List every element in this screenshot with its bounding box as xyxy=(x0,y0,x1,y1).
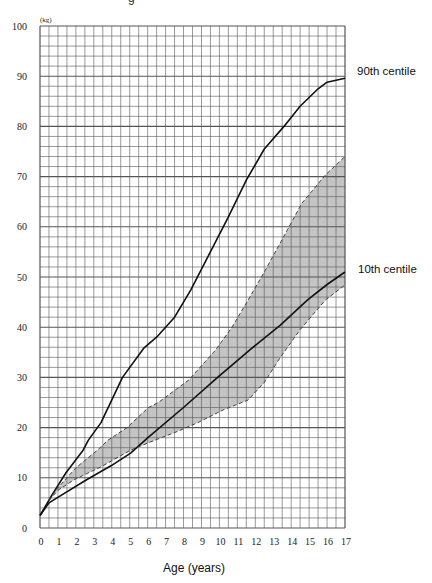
x-tick-label: 14 xyxy=(287,536,297,547)
x-tick-label: 4 xyxy=(110,536,115,547)
x-tick-label: 16 xyxy=(323,536,333,547)
grid xyxy=(40,26,345,528)
y-tick-label: 80 xyxy=(17,121,27,132)
x-tick-label: 10 xyxy=(215,536,225,547)
x-tick-label: 2 xyxy=(74,536,79,547)
weight-centile-chart: 0102030405060708090100 01234567891011121… xyxy=(0,0,432,583)
x-tick-label: 11 xyxy=(234,536,244,547)
y-tick-label: 70 xyxy=(17,171,27,182)
y-tick-label: 50 xyxy=(17,272,27,283)
y-tick-label: 60 xyxy=(17,221,27,232)
y-axis-ticks: 0102030405060708090100 xyxy=(12,21,27,534)
x-tick-label: 8 xyxy=(182,536,187,547)
x-tick-label: 13 xyxy=(269,536,279,547)
x-tick-label: 17 xyxy=(341,536,351,547)
x-axis-label: Age (years) xyxy=(163,561,225,575)
x-tick-label: 15 xyxy=(305,536,315,547)
label-10th-centile: 10th centile xyxy=(358,263,417,275)
y-tick-label: 10 xyxy=(17,472,27,483)
y-tick-label: 30 xyxy=(17,372,27,383)
x-tick-label: 3 xyxy=(92,536,97,547)
x-tick-label: 9 xyxy=(200,536,205,547)
x-tick-label: 6 xyxy=(146,536,151,547)
x-tick-label: 5 xyxy=(128,536,133,547)
x-tick-label: 1 xyxy=(56,536,61,547)
y-axis-unit: (kg) xyxy=(40,16,52,24)
y-tick-label: 100 xyxy=(12,21,27,32)
y-tick-label: 90 xyxy=(17,71,27,82)
label-90th-centile: 90th centile xyxy=(357,65,416,77)
y-tick-label: 20 xyxy=(17,422,27,433)
x-tick-label: 0 xyxy=(39,536,44,547)
x-tick-label: 7 xyxy=(164,536,169,547)
y-tick-label: 0 xyxy=(22,523,27,534)
y-tick-label: 40 xyxy=(17,322,27,333)
x-tick-label: 12 xyxy=(251,536,261,547)
x-axis-ticks: 01234567891011121314151617 xyxy=(39,536,352,547)
